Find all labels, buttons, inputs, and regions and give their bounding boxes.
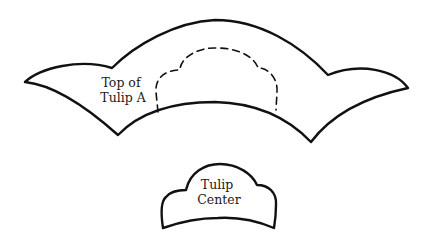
pattern-diagram: Top of Tulip A Tulip Center [0, 0, 430, 249]
label-line-2: Tulip A [100, 90, 146, 105]
tulip-center-piece: Tulip Center [161, 164, 276, 228]
tulip-center-label: Tulip Center [197, 177, 240, 207]
top-of-tulip-a-piece: Top of Tulip A [25, 20, 408, 142]
label-line-2: Center [197, 192, 240, 207]
top-of-tulip-a-label: Top of Tulip A [100, 75, 146, 105]
label-line-1: Top of [101, 75, 141, 90]
label-line-1: Tulip [201, 177, 233, 192]
top-of-tulip-a-outline [25, 20, 408, 142]
